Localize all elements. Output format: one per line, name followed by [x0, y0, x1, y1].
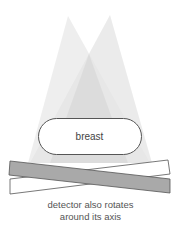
- tomosynthesis-diagram: [0, 0, 181, 230]
- breast-label: breast: [38, 118, 141, 154]
- caption-line-1: detector also rotates: [0, 199, 181, 211]
- caption-line-2: around its axis: [0, 211, 181, 223]
